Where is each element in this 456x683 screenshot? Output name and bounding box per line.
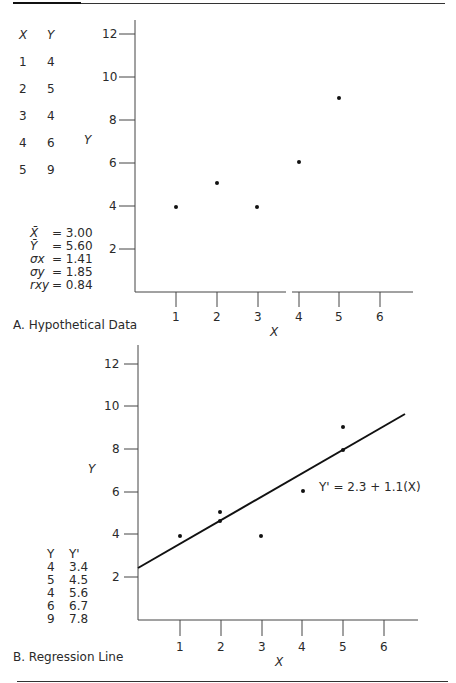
y-tick-label: 8 (109, 114, 117, 126)
table-cell: 4 (19, 136, 47, 163)
x-axis-label: X (275, 656, 283, 668)
table-cell: 5 (19, 163, 47, 190)
x-tick-label: 3 (254, 311, 262, 323)
table-cell: 2 (19, 82, 47, 109)
table-cell: 9 (47, 613, 69, 626)
panel-a-stats: X̄= 3.00 Ȳ= 5.60 σx= 1.41 σy= 1.85 rxy= … (30, 227, 93, 292)
y-tick-label: 2 (109, 243, 117, 255)
table-cell: 6 (47, 136, 55, 163)
table-cell: 5 (47, 82, 55, 109)
y-tick-label: 8 (112, 443, 120, 455)
y-tick-label: 4 (109, 200, 117, 212)
x-tick-label: 5 (339, 641, 347, 653)
table-cell: 4 (47, 55, 55, 82)
panel-a-caption: A. Hypothetical Data (13, 318, 137, 332)
table-header-y: Y (47, 28, 54, 55)
x-tick-label: 6 (380, 641, 388, 653)
y-tick-label: 12 (104, 358, 119, 370)
x-tick-label: 4 (295, 311, 303, 323)
y-tick-label: 2 (112, 571, 120, 583)
y-tick-label: 6 (112, 486, 120, 498)
panel-a-axes (119, 20, 413, 307)
panel-a-points (174, 96, 341, 209)
y-tick-label: 12 (102, 28, 117, 40)
y-axis-label: Y (84, 134, 91, 146)
table-cell: 9 (47, 163, 55, 190)
x-tick-label: 6 (376, 311, 384, 323)
regression-equation: Y' = 2.3 + 1.1(X) (319, 481, 421, 493)
table-cell: 4 (47, 109, 55, 136)
x-tick-label: 1 (172, 311, 180, 323)
table-cell: 1 (19, 55, 47, 82)
x-tick-label: 1 (176, 641, 184, 653)
y-tick-label: 6 (109, 157, 117, 169)
table-cell: 3 (19, 109, 47, 136)
table-cell: 7.8 (69, 613, 88, 626)
table-header-x: X (19, 28, 47, 55)
x-tick-label: 3 (258, 641, 266, 653)
x-tick-label: 2 (217, 641, 225, 653)
stat-label: rxy (30, 279, 52, 292)
y-tick-label: 10 (102, 71, 117, 83)
x-tick-label: 2 (213, 311, 221, 323)
x-tick-label: 5 (335, 311, 343, 323)
x-axis-label: X (270, 326, 278, 338)
y-tick-label: 4 (112, 528, 120, 540)
x-tick-label: 4 (298, 641, 306, 653)
stat-value: = 0.84 (52, 279, 93, 292)
panel-a-table: X Y 14 25 34 46 59 (19, 28, 55, 190)
panel-b-table: YY' 43.4 54.5 45.6 66.7 97.8 (47, 548, 88, 626)
panel-b-caption: B. Regression Line (13, 650, 123, 664)
y-axis-label: Y (88, 463, 95, 475)
y-tick-label: 10 (104, 400, 119, 412)
